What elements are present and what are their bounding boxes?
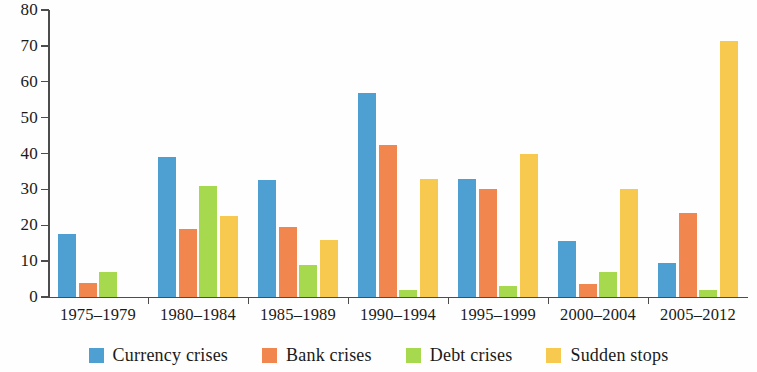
bar [199, 186, 217, 297]
legend-swatch-icon [89, 348, 104, 363]
x-axis-tick [448, 297, 449, 304]
x-axis-tick [148, 297, 149, 304]
y-axis-tick-label-wrap: 0 [0, 288, 38, 305]
legend-label: Debt crises [430, 345, 513, 365]
y-axis-tick-label: 60 [2, 73, 38, 90]
x-axis-group-label: 1995–1999 [448, 306, 548, 324]
bar-chart: 01020304050607080 1975–19791980–19841985… [0, 0, 757, 372]
x-axis-group-label: 1990–1994 [348, 306, 448, 324]
legend-swatch-icon [406, 348, 421, 363]
legend-item[interactable]: Sudden stops [546, 345, 668, 365]
bar [479, 189, 497, 297]
legend-item[interactable]: Debt crises [406, 345, 513, 365]
y-axis-tick-label: 40 [2, 145, 38, 162]
y-axis-tick-label-wrap: 10 [0, 252, 38, 269]
legend-label: Currency crises [113, 345, 228, 365]
bar [220, 216, 238, 297]
y-axis-tick-label: 30 [2, 180, 38, 197]
bar [499, 286, 517, 297]
y-axis-tick-label-wrap: 70 [0, 37, 38, 54]
bar [699, 290, 717, 297]
legend-label: Bank crises [286, 345, 372, 365]
bar [399, 290, 417, 297]
y-axis-tick-label: 10 [2, 252, 38, 269]
bar [279, 227, 297, 297]
legend-label: Sudden stops [570, 345, 668, 365]
x-axis-group-label: 1975–1979 [48, 306, 148, 324]
bar [358, 93, 376, 297]
bar [79, 283, 97, 297]
x-axis-tick [648, 297, 649, 304]
bar [720, 41, 738, 298]
bar [658, 263, 676, 297]
bar [520, 154, 538, 298]
y-axis-tick-label: 70 [2, 37, 38, 54]
plot-area [48, 10, 748, 297]
y-axis-tick-label-wrap: 30 [0, 180, 38, 197]
x-axis-group-label: 2005–2012 [648, 306, 748, 324]
x-axis-group-label: 1985–1989 [248, 306, 348, 324]
bar [420, 179, 438, 297]
bar [558, 241, 576, 297]
y-axis-tick-label-wrap: 60 [0, 73, 38, 90]
chart-legend: Currency crisesBank crisesDebt crisesSud… [0, 340, 757, 370]
bar [58, 234, 76, 297]
y-axis-tick-label-wrap: 20 [0, 216, 38, 233]
legend-swatch-icon [546, 348, 561, 363]
y-axis-tick-label-wrap: 50 [0, 109, 38, 126]
bar [679, 213, 697, 297]
legend-item[interactable]: Bank crises [262, 345, 372, 365]
legend-item[interactable]: Currency crises [89, 345, 228, 365]
x-axis-tick [548, 297, 549, 304]
x-axis-tick [248, 297, 249, 304]
y-axis-tick-label: 20 [2, 216, 38, 233]
x-axis-tick [348, 297, 349, 304]
bar [379, 145, 397, 297]
bar [620, 189, 638, 297]
bar [320, 240, 338, 297]
y-axis-tick-label-wrap: 40 [0, 145, 38, 162]
bar [458, 179, 476, 297]
x-axis-group-label: 2000–2004 [548, 306, 648, 324]
bar [299, 265, 317, 297]
bar [579, 284, 597, 297]
bar [258, 180, 276, 297]
x-axis-group-label: 1980–1984 [148, 306, 248, 324]
y-axis-tick-label: 80 [2, 1, 38, 18]
bar [179, 229, 197, 297]
y-axis-tick-label: 0 [2, 288, 38, 305]
legend-swatch-icon [262, 348, 277, 363]
bar [599, 272, 617, 297]
bar [99, 272, 117, 297]
bar [158, 157, 176, 297]
y-axis-tick-label-wrap: 80 [0, 1, 38, 18]
y-axis-tick-label: 50 [2, 109, 38, 126]
